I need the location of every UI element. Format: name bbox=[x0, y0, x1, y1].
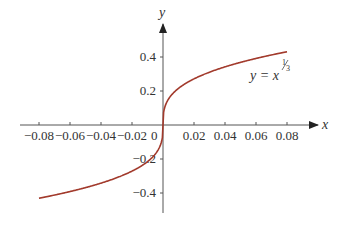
y-axis-label: y bbox=[157, 5, 166, 20]
y-tick-label: 0.2 bbox=[140, 83, 156, 98]
equation-text: y = x bbox=[248, 68, 280, 83]
equation-exponent-denominator: 3 bbox=[286, 64, 290, 73]
x-tick-label: 0.04 bbox=[214, 128, 237, 143]
chart-canvas: −0.08−0.06−0.04−0.020.020.040.060.08 0.4… bbox=[0, 0, 345, 225]
y-tick-label: 0.4 bbox=[140, 49, 157, 64]
x-tick-label: −0.06 bbox=[55, 128, 86, 143]
x-tick-label: −0.08 bbox=[24, 128, 54, 143]
x-tick-label: −0.02 bbox=[117, 128, 147, 143]
origin-label: 0 bbox=[151, 128, 158, 143]
axes bbox=[20, 24, 318, 213]
x-axis-label: x bbox=[321, 117, 329, 132]
x-tick-label: 0.02 bbox=[183, 128, 206, 143]
x-tick-label: −0.04 bbox=[86, 128, 117, 143]
equation-label: y = x 1 3 bbox=[248, 58, 290, 83]
x-tick-label: 0.06 bbox=[245, 128, 268, 143]
x-tick-label: 0.08 bbox=[276, 128, 299, 143]
y-tick-label: −0.4 bbox=[132, 185, 156, 200]
